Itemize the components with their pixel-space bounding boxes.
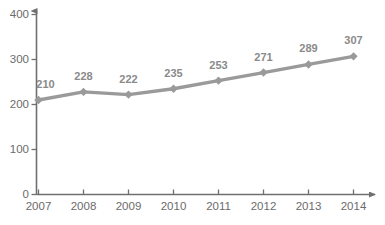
x-axis-tick-label: 2007 [17, 200, 61, 212]
y-axis-tick-label: 200 [10, 98, 29, 110]
data-point-label: 235 [158, 67, 190, 79]
data-point-label: 307 [338, 34, 370, 46]
data-point-marker [259, 68, 267, 76]
y-axis-tick-label: 300 [10, 53, 29, 65]
data-point-marker [34, 96, 42, 104]
line-chart: 0100200300400 20072008200920102011201220… [0, 0, 385, 225]
chart-canvas [0, 0, 385, 225]
x-axis-tick-label: 2011 [197, 200, 241, 212]
x-axis-tick-label: 2012 [242, 200, 286, 212]
y-axis-tick-label: 400 [10, 8, 29, 20]
data-point-label: 253 [203, 59, 235, 71]
data-point-label: 289 [293, 42, 325, 54]
y-axis-tick-label: 100 [10, 143, 29, 155]
x-axis-tick-label: 2008 [62, 200, 106, 212]
x-axis-tick-label: 2014 [332, 200, 376, 212]
x-axis-tick-label: 2010 [152, 200, 196, 212]
y-axis [32, 11, 37, 195]
data-point-marker [79, 88, 87, 96]
x-axis [37, 190, 376, 195]
data-point-marker [349, 52, 357, 60]
x-axis-tick-label: 2009 [107, 200, 151, 212]
data-point-label: 222 [113, 73, 145, 85]
data-point-marker [169, 85, 177, 93]
data-point-marker [124, 90, 132, 98]
data-point-label: 210 [30, 78, 62, 90]
data-point-marker [304, 60, 312, 68]
data-point-marker [214, 76, 222, 84]
data-point-label: 228 [68, 70, 100, 82]
x-axis-tick-label: 2013 [287, 200, 331, 212]
y-axis-tick-label: 0 [23, 188, 29, 200]
data-point-label: 271 [248, 51, 280, 63]
